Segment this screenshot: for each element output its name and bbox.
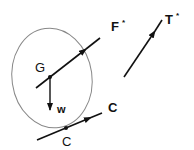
label-T: T [165, 12, 173, 27]
label-T-star: * [176, 11, 180, 20]
label-C-point: C [62, 134, 71, 149]
label-G: G [35, 60, 45, 75]
free-body-diagram: F * T * G w C C [0, 0, 194, 150]
rigid-body-ellipse [5, 23, 98, 133]
label-w: w [56, 103, 66, 115]
contact-point-C [64, 126, 68, 130]
force-F-star-vector [36, 38, 100, 88]
label-C-vector: C [108, 100, 118, 115]
label-F-star: * [122, 18, 126, 27]
label-F: F [111, 19, 119, 34]
center-of-mass-point-G [48, 75, 52, 79]
torque-T-star-vector [124, 20, 162, 77]
